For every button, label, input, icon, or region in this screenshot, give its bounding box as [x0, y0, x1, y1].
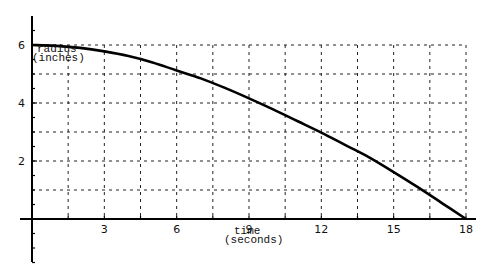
y-axis-label-line2: (inches) — [32, 52, 85, 64]
tick-labels: 369121518246 — [18, 39, 473, 236]
radius-vs-time-chart: 369121518246 radius (inches) time (secon… — [0, 0, 494, 277]
x-axis-label-line2: (seconds) — [224, 234, 283, 246]
grid-lines — [32, 45, 466, 219]
y-tick-label: 2 — [18, 155, 25, 168]
x-tick-label: 12 — [314, 223, 328, 236]
x-tick-label: 15 — [387, 223, 401, 236]
y-tick-label: 6 — [18, 39, 25, 52]
x-tick-label: 6 — [173, 223, 180, 236]
x-tick-label: 18 — [459, 223, 473, 236]
x-tick-label: 3 — [101, 223, 108, 236]
y-tick-label: 4 — [18, 97, 25, 110]
